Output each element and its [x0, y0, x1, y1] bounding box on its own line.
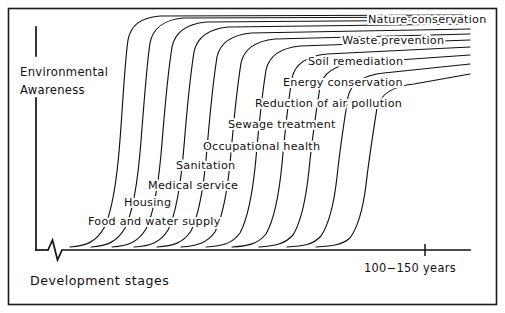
y-axis-label-line2: Awareness — [20, 83, 85, 97]
curve-label-soil-remediation: Soil remediation — [308, 55, 403, 68]
figure-container: Food and water supply Food and water sup… — [0, 0, 505, 313]
curve-waste-prevention — [287, 64, 470, 247]
curve-label-housing: Housing — [124, 196, 171, 209]
y-axis-label-line1: Environmental — [20, 65, 108, 79]
curve-label-waste-prevention: Waste prevention — [342, 34, 444, 47]
curve-medical-service — [112, 20, 470, 247]
curve-label-energy-conservation: Energy conservation — [283, 76, 403, 89]
curve-label-medical-service: Medical service — [148, 179, 238, 192]
curve-label-food-and-water-supply: Food and water supply — [88, 215, 221, 228]
curve-label-reduction-of-air-pollution: Reduction of air pollution — [255, 97, 402, 110]
curve-label-sanitation: Sanitation — [176, 159, 235, 172]
curve-group — [70, 15, 470, 247]
environmental-awareness-chart: Food and water supply Food and water sup… — [0, 0, 505, 313]
curve-label-nature-conservation: Nature conservation — [368, 13, 487, 26]
curve-label-sewage-treatment: Sewage treatment — [228, 118, 336, 131]
x-axis-label: Development stages — [30, 273, 169, 288]
axis-break-zigzag-icon — [48, 240, 62, 260]
curve-label-group: Food and water supply Food and water sup… — [88, 13, 487, 228]
curve-label-occupational-health: Occupational health — [203, 140, 320, 153]
x-axis-tick-label: 100−150 years — [364, 261, 456, 275]
